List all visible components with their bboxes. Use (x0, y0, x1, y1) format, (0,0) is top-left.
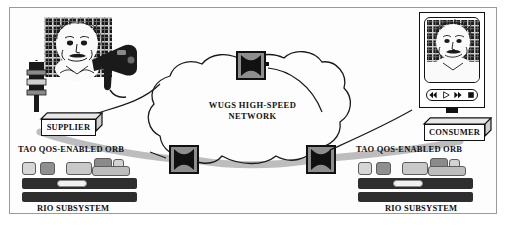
play-button[interactable] (442, 91, 450, 99)
diagram-canvas: WUGS HIGH-SPEED NETWORK (0, 0, 506, 227)
orb-chip[interactable] (92, 166, 130, 176)
video-camera-icon (90, 40, 140, 102)
supplier-node[interactable]: SUPPLIER (41, 113, 103, 137)
orb-bar-lower (358, 192, 473, 202)
orb-chip[interactable] (428, 166, 466, 176)
stop-button[interactable] (467, 91, 475, 99)
orb-bar-lower (22, 192, 137, 202)
consumer-box-face: CONSUMER (424, 124, 485, 141)
consumer-node[interactable]: CONSUMER (424, 118, 492, 142)
orb-chip[interactable] (376, 162, 391, 175)
orb-chip[interactable] (358, 162, 372, 175)
supplier-orb-stack (22, 158, 147, 202)
consumer-subsystem-label: RIO SUBSYSTEM (385, 203, 457, 213)
einstein-portrait-icon (425, 18, 480, 83)
player-stand (446, 108, 458, 113)
rewind-button[interactable] (429, 91, 437, 99)
consumer-orb-label: TAO QOS-ENABLED ORB (356, 144, 462, 154)
player-screen (424, 17, 480, 83)
orb-chip[interactable] (40, 162, 55, 175)
camera-tripod-icon (22, 60, 52, 114)
consumer-label: CONSUMER (429, 128, 480, 137)
supplier-box-face: SUPPLIER (41, 119, 96, 136)
supplier-label: SUPPLIER (47, 123, 91, 132)
orb-chip[interactable] (22, 162, 36, 175)
orb-bar-slot (393, 180, 423, 187)
supplier-capture-group (22, 14, 140, 114)
video-player-icon[interactable] (419, 12, 485, 108)
orb-bar-slot (57, 180, 87, 187)
player-controls[interactable] (426, 89, 478, 101)
consumer-orb-stack (358, 158, 483, 202)
orb-chip[interactable] (402, 162, 428, 175)
fast-forward-button[interactable] (454, 91, 462, 99)
orb-chip[interactable] (66, 162, 92, 175)
supplier-subsystem-label: RIO SUBSYSTEM (37, 203, 109, 213)
supplier-orb-label: TAO QOS-ENABLED ORB (18, 144, 124, 154)
